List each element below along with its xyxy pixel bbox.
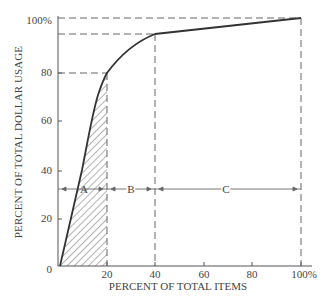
segment-label-a: A bbox=[79, 183, 89, 195]
x-ticks bbox=[107, 262, 301, 266]
segment-label-c: C bbox=[221, 183, 230, 195]
y-tick-label-80: 80 bbox=[22, 66, 52, 78]
x-tick-label-40: 40 bbox=[140, 268, 170, 280]
y-axis-title: PERCENT OF TOTAL DOLLAR USAGE bbox=[12, 46, 24, 238]
segment-label-b: B bbox=[126, 183, 135, 195]
x-tick-label-100: 100% bbox=[289, 268, 319, 280]
y-tick-label-20: 20 bbox=[22, 212, 52, 224]
x-axis-title: PERCENT OF TOTAL ITEMS bbox=[109, 280, 247, 292]
x-tick-label-20: 20 bbox=[92, 268, 122, 280]
y-ticks bbox=[58, 73, 62, 219]
x-tick-label-80: 80 bbox=[237, 268, 267, 280]
abc-analysis-chart bbox=[0, 0, 333, 307]
x-tick-label-60: 60 bbox=[189, 268, 219, 280]
y-tick-label-100: 100% bbox=[22, 14, 52, 26]
y-tick-label-0: 0 bbox=[22, 263, 52, 275]
y-tick-label-40: 40 bbox=[22, 164, 52, 176]
y-tick-label-60: 60 bbox=[22, 114, 52, 126]
